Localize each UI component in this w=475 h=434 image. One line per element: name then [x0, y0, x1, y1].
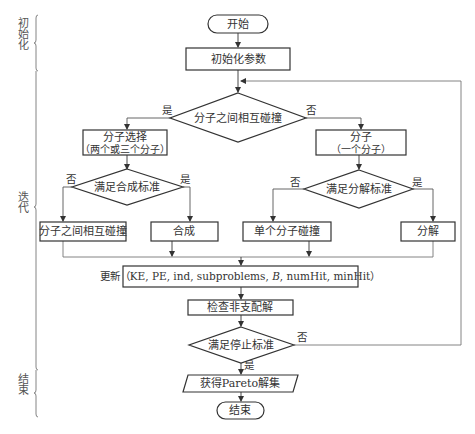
svg-text:初始化参数: 初始化参数 [211, 52, 266, 66]
edge-decompose-no [273, 189, 304, 221]
svg-text:获得Pareto解集: 获得Pareto解集 [200, 376, 280, 390]
flowchart-canvas: 初始化 迭代 结束 是 否 否 是 否 是 否 是 [0, 0, 475, 434]
svg-text:分子之间相互碰撞: 分子之间相互碰撞 [39, 224, 127, 238]
svg-text:分解: 分解 [417, 224, 439, 238]
label-stop-no: 否 [297, 331, 308, 343]
node-decompose-check: 满足分解标准 [304, 170, 413, 208]
svg-text:满足停止标准: 满足停止标准 [208, 338, 274, 352]
node-single-collision: 单个分子碰撞 [243, 222, 331, 241]
edge-decompose-yes [413, 189, 433, 221]
node-collision-check: 分子之间相互碰撞 [170, 93, 306, 142]
node-check-nondominated: 检查非支配解 [188, 300, 293, 315]
label-decompose-yes: 是 [412, 176, 423, 188]
node-init-params: 初始化参数 [186, 48, 290, 70]
svg-text:单个分子碰撞: 单个分子碰撞 [254, 224, 320, 238]
label-decompose-no: 否 [290, 176, 301, 188]
svg-text:分子之间相互碰撞: 分子之间相互碰撞 [194, 111, 282, 125]
svg-text:满足合成标准: 满足合成标准 [94, 180, 160, 194]
node-start: 开始 [208, 15, 268, 33]
svg-text:更新（KE, PE, ind, subproblems, B: 更新（KE, PE, ind, subproblems, B, numHit, … [100, 270, 380, 282]
svg-text:检查非支配解: 检查非支配解 [207, 300, 273, 314]
node-decompose: 分解 [401, 222, 455, 241]
node-synthesis: 合成 [151, 222, 218, 241]
stage-label-iterate: 迭代 [16, 191, 30, 214]
node-single-select: 分子 （一个分子） [316, 130, 406, 155]
node-update: 更新（KE, PE, ind, subproblems, B, numHit, … [100, 266, 380, 287]
svg-text:（一个分子）: （一个分子） [331, 144, 391, 155]
stage-label-init: 初始化 [16, 16, 30, 51]
stage-brace [34, 15, 38, 417]
label-synthesis-yes: 是 [180, 173, 191, 185]
svg-text:分子: 分子 [350, 131, 372, 144]
label-collision-yes: 是 [162, 104, 173, 116]
edge-synthesis-yes [183, 187, 190, 221]
node-get-pareto: 获得Pareto解集 [183, 375, 298, 392]
node-multi-select: 分子选择 （两个或三个分子） [80, 130, 170, 155]
svg-text:满足分解标准: 满足分解标准 [326, 182, 392, 196]
edge-collision-yes [127, 118, 170, 129]
svg-text:分子选择: 分子选择 [103, 130, 147, 144]
node-inter-collision: 分子之间相互碰撞 [39, 222, 127, 241]
edge-collision-no [306, 118, 361, 129]
edge-merge-line [63, 241, 433, 257]
node-stop-check: 满足停止标准 [189, 327, 294, 363]
node-end: 结束 [217, 402, 264, 419]
svg-text:（两个或三个分子）: （两个或三个分子） [80, 144, 170, 155]
svg-text:开始: 开始 [227, 17, 249, 31]
stage-label-end: 结束 [16, 373, 30, 396]
edge-synthesis-no [63, 187, 72, 221]
node-synthesis-check: 满足合成标准 [72, 169, 183, 205]
label-synthesis-no: 否 [66, 173, 77, 185]
svg-text:合成: 合成 [173, 224, 195, 238]
svg-text:结束: 结束 [229, 404, 251, 417]
stage-labels: 初始化 迭代 结束 [16, 16, 30, 397]
label-collision-no: 否 [306, 104, 317, 116]
